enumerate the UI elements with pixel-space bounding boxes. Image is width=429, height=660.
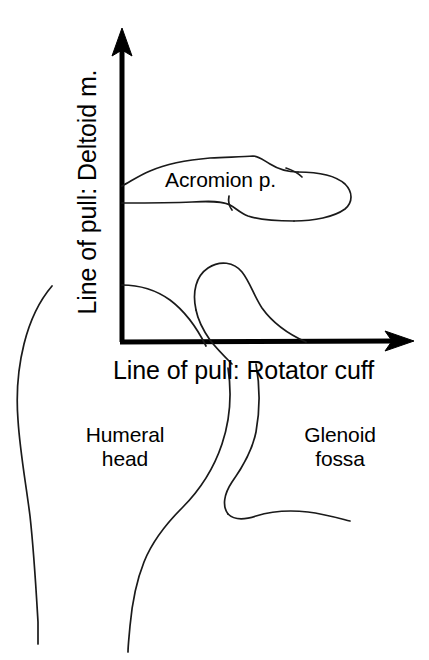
figure-line-art xyxy=(0,0,429,660)
humeral-shaft-outline xyxy=(17,286,52,644)
humeral-head-outline xyxy=(122,263,306,364)
x-axis-label: Line of pull: Rotator cuff xyxy=(113,356,374,384)
humeral-head-label: Humeral head xyxy=(60,423,190,470)
acromion-label: Acromion p. xyxy=(165,168,276,192)
x-axis-line xyxy=(120,341,396,342)
scapular-neck-inferior xyxy=(228,511,350,521)
acromion-inner-notch-lower xyxy=(229,196,232,210)
anatomical-figure: Line of pull: Deltoid m. Line of pull: R… xyxy=(0,0,429,660)
greater-tubercle-dome xyxy=(195,263,307,342)
humeral-anatomical-neck xyxy=(128,368,230,652)
acromion-lateral-tip xyxy=(294,172,351,221)
y-axis-label: Line of pull: Deltoid m. xyxy=(73,47,101,337)
humeral-head-superior-slope xyxy=(122,285,206,346)
glenoid-fossa-label: Glenoid fossa xyxy=(280,423,400,470)
acromion-inferior-border xyxy=(122,201,294,221)
humeral-shaft-left-border xyxy=(17,286,52,644)
humeral-neck-outline xyxy=(128,368,230,652)
